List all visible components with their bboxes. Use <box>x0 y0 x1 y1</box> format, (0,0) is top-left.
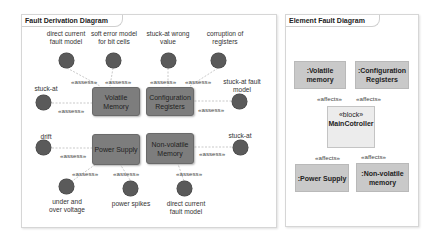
assess-label-1: «assess» <box>71 78 97 85</box>
assess-label-3: «assess» <box>150 78 176 85</box>
fault-label-stuck-at-wrong-value: stuck-at wrong value <box>140 30 196 46</box>
part-volatile-memory-label: :Volatile memory <box>306 66 333 84</box>
assess-label-2: «assess» <box>105 78 131 85</box>
fault-node-stuck-at-wrong-value[interactable] <box>161 53 176 68</box>
assess-label-7: «assess» <box>60 152 86 159</box>
fault-label-stuck-at-fault-model: stuck-at fault model <box>214 78 270 94</box>
part-power-supply[interactable]: :Power Supply <box>295 164 349 192</box>
fault-node-corruption-of-registers[interactable] <box>211 53 226 68</box>
block-volatile-memory-label: Volatile Memory <box>103 93 128 111</box>
affects-label-2: «affects» <box>356 95 381 102</box>
fault-node-direct-current-1[interactable] <box>59 53 74 68</box>
assess-label-10: «assess» <box>113 170 139 177</box>
assess-label-11: «assess» <box>176 170 202 177</box>
fault-node-drift[interactable] <box>36 140 51 155</box>
main-controller-block[interactable]: «block» MainCotroller <box>327 106 375 148</box>
fault-label-stuck-at-2: stuck-at <box>222 132 258 140</box>
fault-node-direct-current-2[interactable] <box>177 181 192 196</box>
affects-label-1: «affects» <box>317 95 342 102</box>
fault-node-stuck-at-1[interactable] <box>36 95 51 110</box>
part-power-supply-label: :Power Supply <box>298 174 347 183</box>
main-controller-stereotype: «block» <box>328 110 374 119</box>
part-non-volatile-memory[interactable]: :Non-volatile memory <box>356 163 409 192</box>
assess-label-5: «assess» <box>58 107 84 114</box>
block-configuration-registers-label: Configuration Registers <box>149 93 191 111</box>
fault-label-power-spikes: power spikes <box>104 200 158 208</box>
block-configuration-registers[interactable]: Configuration Registers <box>146 87 194 116</box>
affects-label-4: «affects» <box>361 153 386 160</box>
block-power-supply-label: Power Supply <box>94 145 137 154</box>
block-volatile-memory[interactable]: Volatile Memory <box>92 87 140 116</box>
fault-node-soft-error[interactable] <box>106 53 121 68</box>
part-non-volatile-memory-label: :Non-volatile memory <box>361 169 403 187</box>
part-volatile-memory[interactable]: :Volatile memory <box>294 61 346 89</box>
fault-label-corruption-of-registers: corruption of registers <box>198 30 252 46</box>
fault-node-under-over-voltage[interactable] <box>59 179 74 194</box>
block-power-supply[interactable]: Power Supply <box>92 134 140 165</box>
fault-label-stuck-at-1: stuck-at <box>28 85 64 93</box>
block-non-volatile-memory[interactable]: Non-volatile Memory <box>146 133 194 164</box>
part-configuration-registers[interactable]: :Configuration Registers <box>355 61 409 89</box>
part-configuration-registers-label: :Configuration Registers <box>358 66 406 84</box>
assess-label-9: «assess» <box>72 170 98 177</box>
fault-label-under-over-voltage: under and over voltage <box>40 198 94 214</box>
fault-label-direct-current-2: direct current fault model <box>158 200 214 216</box>
fault-node-power-spikes[interactable] <box>123 181 138 196</box>
block-non-volatile-memory-label: Non-volatile Memory <box>152 140 189 158</box>
assess-label-8: «assess» <box>199 150 225 157</box>
main-controller-name: MainCotroller <box>328 119 374 128</box>
affects-label-3: «affects» <box>315 154 340 161</box>
assess-label-6: «assess» <box>198 106 224 113</box>
fault-node-stuck-at-fault-model[interactable] <box>232 94 247 109</box>
fault-label-soft-error: soft error model for bit cells <box>84 30 144 46</box>
element-fault-title: Element Fault Diagram <box>286 15 380 27</box>
fault-node-stuck-at-2[interactable] <box>233 140 248 155</box>
assess-label-4: «assess» <box>185 78 211 85</box>
